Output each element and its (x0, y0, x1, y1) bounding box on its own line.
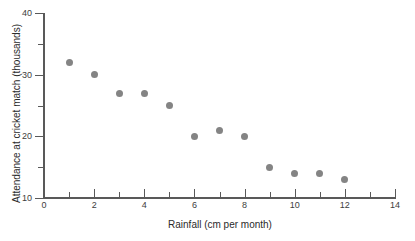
x-tick (44, 189, 45, 198)
data-point (91, 71, 98, 78)
x-axis-title: Rainfall (cm per month) (44, 219, 396, 230)
data-point (166, 102, 173, 109)
x-tick-label: 14 (383, 200, 407, 210)
x-tick (370, 192, 371, 198)
data-point (316, 170, 323, 177)
x-tick (245, 189, 246, 198)
y-axis-title: Attendance at cricket match (thousands) (11, 24, 22, 203)
x-tick (119, 192, 120, 198)
y-tick (38, 44, 44, 45)
x-tick (169, 192, 170, 198)
y-tick (35, 75, 44, 76)
data-point (141, 90, 148, 97)
x-tick (69, 192, 70, 198)
x-tick-label: 0 (32, 200, 56, 210)
x-tick-label: 6 (182, 200, 206, 210)
x-tick-label: 2 (82, 200, 106, 210)
scatter-chart: 02468101214 10203040 Rainfall (cm per mo… (0, 0, 415, 241)
data-point (341, 176, 348, 183)
x-tick (144, 189, 145, 198)
y-tick (38, 106, 44, 107)
x-tick (320, 192, 321, 198)
data-point (116, 90, 123, 97)
y-tick (35, 198, 44, 199)
x-tick (270, 192, 271, 198)
x-tick-label: 4 (132, 200, 156, 210)
data-point (191, 133, 198, 140)
data-point (66, 59, 73, 66)
y-tick (38, 167, 44, 168)
data-point (291, 170, 298, 177)
y-tick-label: 40 (8, 8, 32, 18)
x-tick (94, 189, 95, 198)
x-tick (194, 189, 195, 198)
x-tick (295, 189, 296, 198)
x-tick (345, 189, 346, 198)
data-point (266, 164, 273, 171)
x-tick-label: 10 (283, 200, 307, 210)
data-point (216, 127, 223, 134)
x-tick (395, 189, 396, 198)
y-tick (35, 13, 44, 14)
x-tick-label: 12 (333, 200, 357, 210)
x-tick (220, 192, 221, 198)
data-point (241, 133, 248, 140)
y-tick (35, 136, 44, 137)
x-tick-label: 8 (233, 200, 257, 210)
